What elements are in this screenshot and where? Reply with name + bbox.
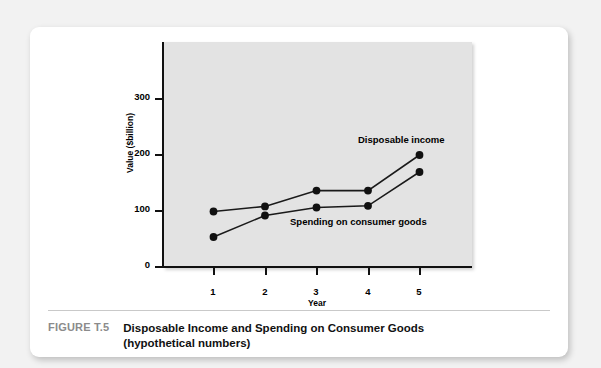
x-tick-3: 3 (316, 267, 318, 275)
series-line-disposable-income (214, 155, 420, 212)
x-tick-4: 4 (368, 267, 370, 275)
y-tick-label-300: 300 (134, 91, 150, 102)
figure-title-line2: (hypothetical numbers) (123, 337, 250, 349)
data-point-income-5 (416, 151, 424, 159)
chart-figure: 0 100 200 300 1 2 3 (30, 27, 568, 307)
y-tick-label-0: 0 (145, 259, 150, 270)
data-point-spending-5 (416, 168, 424, 176)
series-label-disposable-income: Disposable income (358, 134, 445, 145)
caption-divider (48, 310, 550, 311)
data-point-spending-1 (210, 233, 218, 241)
x-tick-label-5: 5 (416, 286, 421, 297)
screenshot-root: 0 100 200 300 1 2 3 (0, 0, 601, 368)
figure-title-line1: Disposable Income and Spending on Consum… (123, 322, 424, 334)
figure-caption: FIGURE T.5 Disposable Income and Spendin… (48, 321, 553, 351)
x-tick-label-3: 3 (313, 286, 318, 297)
data-point-income-4 (364, 187, 372, 195)
data-point-income-2 (261, 203, 269, 211)
x-tick-label-2: 2 (262, 286, 267, 297)
data-point-spending-4 (364, 202, 372, 210)
y-axis-label: Value ($billion) (125, 113, 135, 173)
figure-number: FIGURE T.5 (48, 321, 109, 333)
data-point-income-3 (313, 187, 321, 195)
x-tick-label-4: 4 (365, 286, 370, 297)
x-tick-2: 2 (265, 267, 267, 275)
figure-title: Disposable Income and Spending on Consum… (123, 321, 424, 351)
series-layer (162, 42, 472, 268)
series-label-spending: Spending on consumer goods (290, 216, 427, 227)
x-tick-1: 1 (213, 267, 215, 275)
y-tick-label-200: 200 (134, 147, 150, 158)
y-tick-label-100: 100 (134, 203, 150, 214)
x-tick-5: 5 (419, 267, 421, 275)
data-point-income-1 (210, 208, 218, 216)
plot-wrapper: 0 100 200 300 1 2 3 (162, 42, 472, 268)
figure-card: 0 100 200 300 1 2 3 (30, 27, 568, 357)
x-tick-label-1: 1 (210, 286, 215, 297)
data-point-spending-3 (313, 204, 321, 212)
data-point-spending-2 (261, 212, 269, 220)
x-axis-label: Year (162, 298, 472, 308)
